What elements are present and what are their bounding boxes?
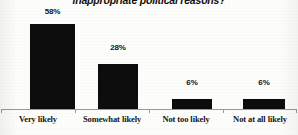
category-label-very-likely: Very likely <box>1 114 75 124</box>
bar-chart: inappropriate political reasons? 58% 28%… <box>0 0 298 135</box>
category-label-not-at-all-likely: Not at all likely <box>223 114 297 124</box>
bar-value-label: 6% <box>172 78 212 87</box>
x-axis-tick <box>223 109 224 113</box>
x-axis-tick <box>1 109 2 113</box>
bar[interactable] <box>30 24 75 109</box>
x-axis-tick <box>296 109 297 113</box>
bar-group: 6% <box>243 8 285 109</box>
bar-value-label: 28% <box>98 43 138 52</box>
x-axis-tick <box>75 109 76 113</box>
bar[interactable] <box>98 64 138 109</box>
bar-group: 58% <box>30 8 75 109</box>
bar[interactable] <box>172 99 212 109</box>
bar-value-label: 6% <box>243 78 285 87</box>
bar[interactable] <box>243 99 285 109</box>
category-label-somewhat-likely: Somewhat likely <box>75 114 149 124</box>
chart-title: inappropriate political reasons? <box>0 0 298 6</box>
x-axis-tick <box>149 109 150 113</box>
bar-group: 28% <box>98 8 138 109</box>
category-label-not-too-likely: Not too likely <box>149 114 223 124</box>
bar-group: 6% <box>172 8 212 109</box>
bar-value-label: 58% <box>30 7 75 16</box>
plot-area: 58% 28% 6% 6% Very likely Somewhat likel… <box>0 8 298 102</box>
